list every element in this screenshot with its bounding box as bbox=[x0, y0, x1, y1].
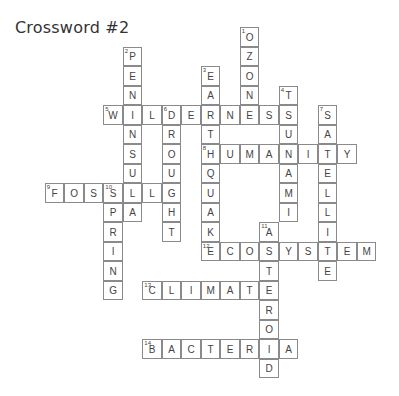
crossword-cell[interactable]: L bbox=[142, 105, 162, 125]
crossword-cell[interactable]: C bbox=[181, 339, 201, 359]
crossword-cell[interactable]: O bbox=[64, 183, 84, 203]
crossword-cell[interactable]: I bbox=[279, 203, 299, 223]
crossword-cell[interactable]: H8 bbox=[201, 144, 221, 164]
crossword-cell[interactable]: A bbox=[279, 164, 299, 184]
crossword-cell[interactable]: R bbox=[162, 125, 182, 145]
crossword-cell[interactable]: A bbox=[279, 339, 299, 359]
crossword-cell[interactable]: S bbox=[123, 144, 143, 164]
crossword-cell[interactable]: T bbox=[318, 144, 338, 164]
crossword-cell[interactable]: Z bbox=[240, 47, 260, 67]
crossword-cell[interactable]: A bbox=[259, 144, 279, 164]
crossword-cell[interactable]: I bbox=[103, 242, 123, 262]
crossword-cell[interactable]: L bbox=[162, 281, 182, 301]
crossword-cell[interactable]: A bbox=[162, 339, 182, 359]
crossword-cell[interactable]: R bbox=[240, 339, 260, 359]
crossword-cell[interactable]: R bbox=[103, 222, 123, 242]
crossword-cell[interactable]: C bbox=[220, 242, 240, 262]
crossword-cell[interactable]: P2 bbox=[123, 47, 143, 67]
crossword-cell[interactable]: F9 bbox=[45, 183, 65, 203]
crossword-cell[interactable]: E bbox=[181, 105, 201, 125]
crossword-cell[interactable]: N bbox=[279, 144, 299, 164]
crossword-cell[interactable]: E bbox=[318, 261, 338, 281]
crossword-cell[interactable]: N bbox=[220, 105, 240, 125]
crossword-cell[interactable]: E3 bbox=[201, 66, 221, 86]
crossword-cell[interactable]: O bbox=[240, 66, 260, 86]
crossword-cell[interactable]: L bbox=[123, 183, 143, 203]
crossword-cell[interactable]: S bbox=[259, 242, 279, 262]
crossword-cell[interactable]: T bbox=[201, 125, 221, 145]
crossword-cell[interactable]: T bbox=[259, 261, 279, 281]
crossword-cell[interactable]: C13 bbox=[142, 281, 162, 301]
crossword-cell[interactable]: O bbox=[162, 144, 182, 164]
crossword-cell[interactable]: A11 bbox=[259, 222, 279, 242]
crossword-cell[interactable]: O bbox=[259, 320, 279, 340]
crossword-cell[interactable]: T bbox=[240, 281, 260, 301]
crossword-cell[interactable]: S7 bbox=[318, 105, 338, 125]
crossword-cell[interactable]: A bbox=[123, 203, 143, 223]
crossword-cell[interactable]: I bbox=[298, 144, 318, 164]
crossword-cell[interactable]: Q bbox=[201, 164, 221, 184]
crossword-cell[interactable]: I bbox=[259, 339, 279, 359]
crossword-cell[interactable]: I bbox=[181, 281, 201, 301]
cell-letter: L bbox=[169, 285, 175, 296]
crossword-cell[interactable]: S bbox=[279, 105, 299, 125]
crossword-cell[interactable]: L bbox=[142, 183, 162, 203]
crossword-cell[interactable]: S bbox=[259, 105, 279, 125]
crossword-cell[interactable]: M bbox=[201, 281, 221, 301]
crossword-cell[interactable]: N bbox=[123, 86, 143, 106]
crossword-cell[interactable]: U bbox=[123, 164, 143, 184]
crossword-cell[interactable]: T bbox=[318, 242, 338, 262]
crossword-cell[interactable]: K bbox=[201, 222, 221, 242]
crossword-cell[interactable]: O1 bbox=[240, 27, 260, 47]
crossword-cell[interactable]: R bbox=[259, 300, 279, 320]
crossword-cell[interactable]: I bbox=[318, 222, 338, 242]
crossword-cell[interactable]: T bbox=[201, 339, 221, 359]
crossword-cell[interactable]: A bbox=[318, 125, 338, 145]
crossword-cell[interactable]: L bbox=[318, 183, 338, 203]
crossword-cell[interactable]: Y bbox=[337, 144, 357, 164]
crossword-cell[interactable]: L bbox=[318, 203, 338, 223]
crossword-cell[interactable]: E12 bbox=[201, 242, 221, 262]
crossword-cell[interactable]: G bbox=[162, 183, 182, 203]
crossword-cell[interactable]: M bbox=[357, 242, 377, 262]
cell-letter: F bbox=[51, 188, 57, 199]
crossword-cell[interactable]: H bbox=[162, 203, 182, 223]
crossword-cell[interactable]: U bbox=[162, 164, 182, 184]
crossword-cell[interactable]: U bbox=[279, 125, 299, 145]
crossword-cell[interactable]: N bbox=[103, 261, 123, 281]
crossword-cell[interactable]: M bbox=[240, 144, 260, 164]
crossword-cell[interactable]: A bbox=[201, 86, 221, 106]
crossword-cell[interactable]: N bbox=[240, 86, 260, 106]
crossword-cell[interactable]: E bbox=[220, 339, 240, 359]
crossword-cell[interactable]: E bbox=[318, 164, 338, 184]
crossword-cell[interactable]: T4 bbox=[279, 86, 299, 106]
crossword-cell[interactable]: U bbox=[201, 183, 221, 203]
crossword-cell[interactable]: B14 bbox=[142, 339, 162, 359]
crossword-cell[interactable]: Y bbox=[279, 242, 299, 262]
crossword-cell[interactable]: S10 bbox=[103, 183, 123, 203]
crossword-cell[interactable]: E bbox=[259, 281, 279, 301]
crossword-cell[interactable]: D bbox=[259, 359, 279, 379]
cell-letter: M bbox=[362, 246, 370, 257]
cell-letter: P bbox=[129, 51, 136, 62]
crossword-cell[interactable]: E bbox=[337, 242, 357, 262]
crossword-cell[interactable]: A bbox=[220, 281, 240, 301]
crossword-cell[interactable]: I bbox=[123, 105, 143, 125]
crossword-cell[interactable]: A bbox=[201, 203, 221, 223]
crossword-cell[interactable]: S bbox=[84, 183, 104, 203]
crossword-cell[interactable]: M bbox=[279, 183, 299, 203]
crossword-cell[interactable]: P bbox=[103, 203, 123, 223]
crossword-cell[interactable]: U bbox=[220, 144, 240, 164]
crossword-cell[interactable]: R bbox=[201, 105, 221, 125]
crossword-cell[interactable]: E bbox=[240, 105, 260, 125]
crossword-cell[interactable]: E bbox=[123, 66, 143, 86]
crossword-cell[interactable]: D6 bbox=[162, 105, 182, 125]
crossword-cell[interactable]: T bbox=[162, 222, 182, 242]
cell-letter: H bbox=[168, 207, 175, 218]
cell-letter: Q bbox=[207, 168, 215, 179]
crossword-cell[interactable]: G bbox=[103, 281, 123, 301]
crossword-cell[interactable]: W5 bbox=[103, 105, 123, 125]
crossword-cell[interactable]: O bbox=[240, 242, 260, 262]
crossword-cell[interactable]: N bbox=[123, 125, 143, 145]
crossword-cell[interactable]: S bbox=[298, 242, 318, 262]
